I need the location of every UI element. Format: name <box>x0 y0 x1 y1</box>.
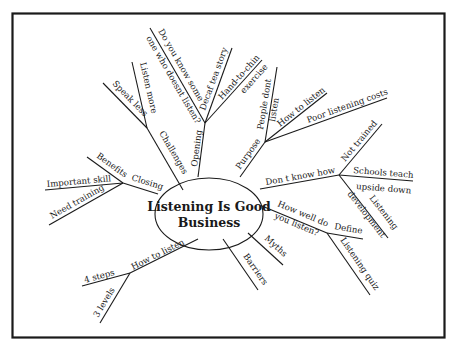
not-trained-label: Not trained <box>339 118 379 163</box>
dont-know-how-label: Don t know how <box>265 165 337 187</box>
schools-teach-label-b: upside down <box>356 181 412 195</box>
central-topic: Listening Is Good Business <box>147 178 271 250</box>
mind-map-canvas: Listening Is Good Business Opening Do yo… <box>0 0 455 348</box>
barriers-label: Barriers <box>241 251 270 286</box>
closing-label: Closing <box>130 172 165 191</box>
branch-purpose: Purpose People dont listen How to listen… <box>233 67 389 177</box>
need-training-line <box>49 183 123 225</box>
myths-label: Myths <box>263 233 290 259</box>
challenges-label: Challenges <box>157 129 190 176</box>
schools-teach-label-a: Schools teach <box>353 165 415 180</box>
how-to-listen-label: How to listen <box>129 237 186 272</box>
define-label: Define <box>334 221 364 236</box>
four-steps-label: 4 steps <box>83 267 116 285</box>
central-title-line2: Business <box>178 215 241 230</box>
central-title-line1: Listening Is Good <box>147 199 271 214</box>
branch-how-to-listen: How to listen 4 steps 3 levels <box>82 237 198 323</box>
central-ellipse <box>155 178 263 250</box>
listening-quiz-label: Listening quiz <box>338 235 382 292</box>
